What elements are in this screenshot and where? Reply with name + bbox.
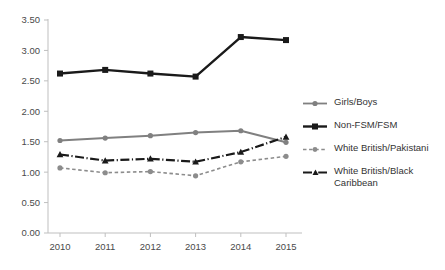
legend-item-white-british-black-caribbean[interactable]: White British/Black Caribbean	[302, 165, 442, 188]
x-axis-tick-label: 2014	[230, 241, 251, 252]
series-line	[60, 137, 286, 162]
legend-item-non-fsm-fsm[interactable]: Non-FSM/FSM	[302, 119, 442, 133]
y-axis-tick-label: 2.00	[22, 106, 41, 117]
series-data-point	[103, 135, 108, 140]
y-axis-tick-label: 3.00	[22, 45, 41, 56]
line-chart: 0.000.501.001.502.002.503.003.5020102011…	[0, 0, 445, 270]
series-data-point	[238, 34, 244, 40]
series-data-point	[238, 128, 243, 133]
y-axis-tick-label: 1.00	[22, 167, 41, 178]
legend-key-non-fsm-fsm	[302, 120, 328, 133]
y-axis-tick-label: 1.50	[22, 136, 41, 147]
legend-label-white-british-black-caribbean: White British/Black Caribbean	[334, 165, 442, 188]
legend-item-white-british-pakistani[interactable]: White British/Pakistani	[302, 142, 442, 156]
legend-label-white-british-pakistani: White British/Pakistani	[334, 142, 429, 154]
series-data-point	[193, 74, 199, 80]
x-axis-tick-label: 2013	[185, 241, 206, 252]
series-data-point	[57, 138, 62, 143]
chart-series-2	[57, 34, 289, 80]
x-axis-tick-label: 2012	[140, 241, 161, 252]
series-data-point	[148, 169, 153, 174]
legend-item-girls-boys[interactable]: Girls/Boys	[302, 96, 442, 110]
legend-key-girls-boys	[302, 97, 328, 110]
chart-series-1	[57, 128, 288, 145]
series-line	[60, 131, 286, 143]
x-axis-tick-label: 2010	[49, 241, 70, 252]
series-data-point	[57, 165, 62, 170]
series-data-point	[147, 71, 153, 77]
chart-legend: Girls/Boys Non-FSM/FSM White British/Pak…	[302, 96, 442, 197]
series-data-point	[57, 71, 63, 77]
series-data-point	[238, 159, 243, 164]
legend-key-white-british-pakistani	[302, 143, 328, 156]
x-axis-tick-label: 2015	[275, 241, 296, 252]
series-data-point	[102, 67, 108, 73]
y-axis-tick-label: 2.50	[22, 75, 41, 86]
legend-label-non-fsm-fsm: Non-FSM/FSM	[334, 119, 397, 131]
series-data-point	[283, 133, 290, 139]
y-axis-tick-label: 0.00	[22, 227, 41, 238]
y-axis-tick-label: 3.50	[22, 14, 41, 25]
series-data-point	[193, 173, 198, 178]
legend-label-girls-boys: Girls/Boys	[334, 96, 377, 108]
x-axis-tick-label: 2011	[95, 241, 115, 252]
legend-key-white-british-black-caribbean	[302, 166, 328, 179]
chart-series-3	[57, 154, 288, 179]
series-data-point	[283, 154, 288, 159]
series-data-point	[103, 170, 108, 175]
series-line	[60, 37, 286, 77]
y-axis-tick-label: 0.50	[22, 197, 41, 208]
series-data-point	[193, 130, 198, 135]
series-data-point	[283, 140, 288, 145]
series-data-point	[283, 37, 289, 43]
series-data-point	[148, 133, 153, 138]
